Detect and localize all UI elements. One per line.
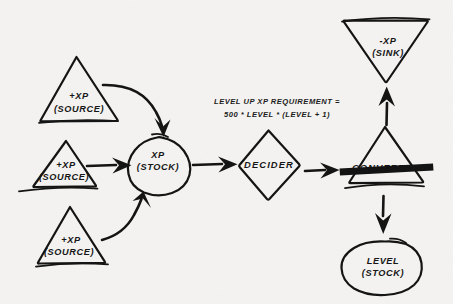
source-2-main-label: +XP xyxy=(56,160,76,170)
edge-line xyxy=(87,165,116,166)
edge-source2-to-xpstock xyxy=(87,158,132,174)
edge-line xyxy=(383,196,384,216)
node-decider[interactable]: DECIDER xyxy=(239,131,300,200)
triangle-base-stroke-converter xyxy=(345,184,424,188)
edge-converter-to-levelstock xyxy=(375,196,392,234)
edge-decider-to-converter xyxy=(305,163,340,179)
source-2-sub-label: (SOURCE) xyxy=(39,172,89,182)
xp-sink-sub-label: (SINK) xyxy=(372,48,404,58)
xp-stock-main-label: XP xyxy=(150,150,165,160)
edge-source3-to-xpstock xyxy=(102,192,151,241)
edge-line xyxy=(305,170,325,171)
formula-line-2: 500 * LEVEL * (LEVEL + 1) xyxy=(224,110,330,119)
hand-drawn-flow-diagram: +XP (SOURCE) +XP (SOURCE) +XP (SOURCE) X… xyxy=(0,0,453,304)
edge-converter-to-xpsink xyxy=(379,87,396,126)
decider-label: DECIDER xyxy=(244,159,294,170)
xp-stock-sub-label: (STOCK) xyxy=(137,162,179,172)
triangle-base-stroke-source-2 xyxy=(19,188,98,192)
edge-source1-to-xpstock xyxy=(103,85,171,137)
edge-xpstock-to-decider xyxy=(193,157,238,173)
source-1-sub-label: (SOURCE) xyxy=(54,104,104,114)
formula-annotation: LEVEL UP XP REQUIREMENT = 500 * LEVEL * … xyxy=(214,97,340,119)
node-xp-stock[interactable]: XP (STOCK) xyxy=(128,134,190,195)
edge-line xyxy=(387,103,388,125)
source-3-sub-label: (SOURCE) xyxy=(44,247,94,257)
node-converter[interactable]: CONVERTER xyxy=(340,127,434,188)
node-source-3[interactable]: +XP (SOURCE) xyxy=(36,207,108,267)
edge-line xyxy=(102,199,142,240)
source-1-main-label: +XP xyxy=(69,91,89,101)
node-xp-sink[interactable]: -XP (SINK) xyxy=(342,18,430,82)
diagram-canvas: +XP (SOURCE) +XP (SOURCE) +XP (SOURCE) X… xyxy=(0,0,453,304)
xp-sink-main-label: -XP xyxy=(379,36,396,46)
node-level-stock[interactable]: LEVEL (STOCK) xyxy=(341,239,421,296)
triangle-outline-converter xyxy=(349,127,423,183)
level-stock-main-label: LEVEL xyxy=(367,256,400,266)
edge-line xyxy=(193,164,222,165)
node-source-1[interactable]: +XP (SOURCE) xyxy=(39,57,118,123)
formula-line-1: LEVEL UP XP REQUIREMENT = xyxy=(214,97,340,106)
level-stock-sub-label: (STOCK) xyxy=(362,268,404,278)
source-3-main-label: +XP xyxy=(61,235,81,245)
